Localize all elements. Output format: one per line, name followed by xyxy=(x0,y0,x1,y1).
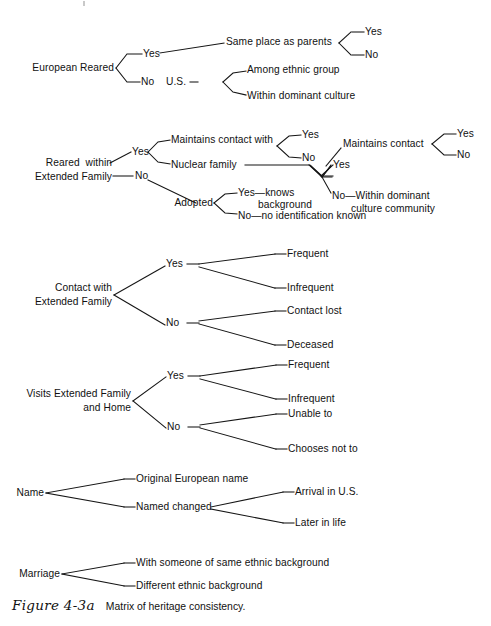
node-named-changed: Named changed xyxy=(136,501,212,513)
node-reared-within-no: No xyxy=(135,170,148,182)
node-contact-infrequent: Infrequent xyxy=(287,282,334,294)
node-visits-chooses-not-to: Chooses not to xyxy=(288,443,358,455)
node-within-dominant-culture: Within dominant culture xyxy=(247,90,355,102)
node-among-ethnic-group: Among ethnic group xyxy=(247,64,340,76)
node-different-ethnic-background: Different ethnic background xyxy=(136,580,263,592)
node-reared-within-yes: Yes xyxy=(132,146,149,158)
node-visits-frequent: Frequent xyxy=(288,359,329,371)
node-contact-with-yes: Yes xyxy=(166,258,183,270)
node-european-reared-yes: Yes xyxy=(143,48,160,60)
node-maintains-contact-no: No xyxy=(457,149,470,161)
figure-number: Figure 4-3a xyxy=(12,597,95,613)
tree-root-reared-within-line2: Extended Family xyxy=(35,171,112,183)
scan-artifact xyxy=(83,1,85,6)
node-nuclear-family-yes: Yes xyxy=(333,159,350,171)
tree-root-european-reared: European Reared xyxy=(32,62,114,74)
tree-root-marriage: Marriage xyxy=(19,568,60,580)
node-visits-infrequent: Infrequent xyxy=(288,393,335,405)
node-visits-unable-to: Unable to xyxy=(288,408,332,420)
node-visits-yes: Yes xyxy=(167,370,184,382)
node-us: U.S. xyxy=(166,76,186,88)
node-arrival-in-us: Arrival in U.S. xyxy=(295,486,358,498)
tree-root-visits-line2: and Home xyxy=(83,402,131,414)
node-same-place-as-parents: Same place as parents xyxy=(226,36,332,48)
node-visits-no: No xyxy=(167,421,180,433)
node-contact-lost: Contact lost xyxy=(287,305,342,317)
heritage-consistency-figure: European Reared Yes No U.S. Same place a… xyxy=(0,0,491,626)
node-same-ethnic-background: With someone of same ethnic background xyxy=(136,557,329,569)
tree-root-visits-line1: Visits Extended Family xyxy=(26,388,131,400)
tree-root-contact-with-line1: Contact with xyxy=(55,282,112,294)
node-adopted-yes-line1: Yes—knows xyxy=(238,187,294,199)
node-maintains-contact-with-no: No xyxy=(302,152,315,164)
node-european-reared-no: No xyxy=(141,76,154,88)
node-maintains-contact-yes: Yes xyxy=(457,128,474,140)
node-contact-deceased: Deceased xyxy=(287,339,334,351)
node-same-place-no: No xyxy=(365,49,378,61)
figure-caption-text: Matrix of heritage consistency. xyxy=(106,601,246,612)
tree-root-contact-with-line2: Extended Family xyxy=(35,296,112,308)
tree-connector-lines xyxy=(0,0,491,626)
node-contact-frequent: Frequent xyxy=(287,248,328,260)
node-nuclear-family-no-line1: No—Within dominant xyxy=(332,190,430,202)
tree-root-reared-within-line1: Reared within xyxy=(46,157,112,169)
node-original-european-name: Original European name xyxy=(136,473,248,485)
node-maintains-contact-with-yes: Yes xyxy=(302,129,319,141)
node-nuclear-family: Nuclear family xyxy=(171,159,237,171)
node-later-in-life: Later in life xyxy=(295,517,346,529)
node-contact-with-no: No xyxy=(166,317,179,329)
figure-caption: Figure 4-3a Matrix of heritage consisten… xyxy=(12,597,245,613)
node-same-place-yes: Yes xyxy=(365,26,382,38)
node-maintains-contact: Maintains contact xyxy=(343,138,424,150)
node-maintains-contact-with: Maintains contact with xyxy=(171,134,273,146)
tree-root-name: Name xyxy=(17,487,45,499)
node-adopted: Adopted xyxy=(174,197,213,209)
node-adopted-no: No—no identification known xyxy=(238,210,366,222)
